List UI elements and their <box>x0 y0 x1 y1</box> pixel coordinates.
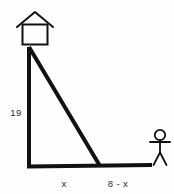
stick-figure-icon <box>150 130 170 165</box>
label-base-right-segment: 8 - x <box>108 178 128 189</box>
label-base-left-segment: x <box>61 178 66 189</box>
geometry-diagram: 19 x 8 - x <box>0 0 174 194</box>
label-vertical-leg: 19 <box>10 107 21 118</box>
stick-figure-head-icon <box>155 130 165 140</box>
house-body-icon <box>23 25 48 45</box>
house-icon <box>17 12 53 45</box>
right-triangle <box>29 47 100 167</box>
triangle-hypotenuse <box>29 47 100 166</box>
stick-figure-right-leg-icon <box>160 153 167 166</box>
ground-baseline <box>27 165 152 167</box>
stick-figure-left-leg-icon <box>154 153 161 166</box>
diagram-canvas: 19 x 8 - x <box>0 0 174 194</box>
